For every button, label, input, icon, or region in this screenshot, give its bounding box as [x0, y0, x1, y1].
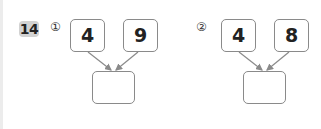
- right-number-box: 9: [123, 19, 158, 52]
- right-number-box: 8: [274, 19, 309, 52]
- answer-box[interactable]: [92, 71, 135, 104]
- arrows-diagram: [0, 0, 321, 129]
- part-marker-2: ②: [196, 20, 207, 34]
- left-number-box: 4: [221, 19, 256, 52]
- arrow-icon: [88, 52, 289, 70]
- left-number-box: 4: [70, 19, 105, 52]
- answer-box[interactable]: [243, 71, 286, 104]
- part-marker-1: ①: [50, 20, 61, 34]
